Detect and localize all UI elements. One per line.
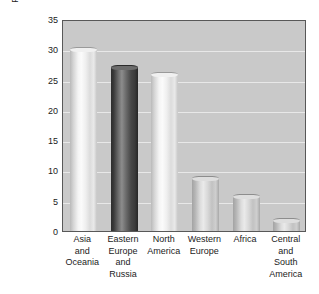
y-axis-title: Percent of proved recoverable coal reser… — [6, 0, 36, 48]
x-tick-label: Central and South America — [260, 234, 312, 280]
bar-top-cap — [192, 176, 219, 181]
bar-top-cap — [151, 72, 178, 77]
bar-body — [151, 74, 178, 231]
bars-layer — [63, 21, 305, 231]
bar-body — [192, 178, 219, 231]
bar — [111, 67, 138, 231]
bar-top-cap — [111, 65, 138, 70]
y-tick-label: 25 — [36, 77, 58, 86]
x-axis-tick-labels: Asia and OceaniaEastern Europe and Russi… — [62, 234, 306, 292]
bar-body — [70, 49, 97, 231]
y-tick-label: 10 — [36, 167, 58, 176]
bar-body — [233, 196, 260, 231]
y-tick-label: 5 — [36, 198, 58, 207]
bar-top-cap — [70, 47, 97, 52]
bar — [273, 220, 300, 231]
bar-chart-figure: Percent of proved recoverable coal reser… — [0, 0, 319, 294]
y-tick-label: 20 — [36, 107, 58, 116]
y-tick-label: 30 — [36, 46, 58, 55]
bar — [70, 49, 97, 231]
bar-top-cap — [273, 218, 300, 223]
bar — [192, 178, 219, 231]
bar-body — [111, 67, 138, 231]
y-tick-label: 15 — [36, 137, 58, 146]
y-axis-tick-labels: 35302520151050 — [36, 20, 58, 232]
bar-top-cap — [233, 194, 260, 199]
y-tick-label: 0 — [36, 228, 58, 237]
bar — [151, 74, 178, 231]
bar — [233, 196, 260, 231]
y-tick-label: 35 — [36, 16, 58, 25]
plot-area — [62, 20, 306, 232]
